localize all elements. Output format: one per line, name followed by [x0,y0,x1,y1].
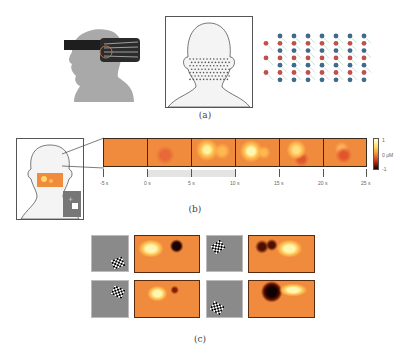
checkerboard-icon [209,301,224,316]
heatmap-time-series [103,138,367,167]
tick [103,169,104,177]
head-with-cap-figure [62,22,142,102]
colorbar-mid-label: 0 μM [382,152,393,158]
activation-map [134,235,200,273]
checkerboard-icon [110,285,125,299]
head-back-view-icon [166,17,252,107]
zoom-lines [60,136,106,172]
stimulus-image [206,235,243,272]
tick-label: 15 s [274,180,283,186]
tick-label: 10 s [230,180,239,186]
checkerboard-icon [111,256,126,270]
heatmap-frame [104,139,148,166]
head-silhouette-icon [62,22,142,102]
colorbar [373,138,379,170]
heatmap-frame [148,139,192,166]
heatmap-frame [192,139,236,166]
heatmap-frame [324,139,368,166]
panel-c-label: (c) [185,334,215,344]
checkerboard-icon [210,239,226,254]
heatmap-frame [280,139,324,166]
panel-a-label: (a) [190,110,220,120]
colorbar-bottom-label: -1 [382,166,386,172]
tick [191,169,192,177]
tick [323,169,324,177]
head-back-grid-frame [165,16,253,108]
stimulus-image [91,280,129,318]
optode-array-icon [262,32,372,84]
tick-label: 0 s [144,180,151,186]
tick-label: -5 s [100,180,108,186]
stimulus-image [206,280,243,318]
activation-map [248,280,315,318]
panel-b-label: (b) [180,204,210,214]
tick [279,169,280,177]
stimulus-image [91,235,129,272]
tick [366,169,367,177]
tick-label: 20 s [318,180,327,186]
tick [147,169,148,177]
heatmap-frame [236,139,280,166]
tick [235,169,236,177]
tick-label: 5 s [188,180,195,186]
svg-text:+: + [68,195,73,202]
optode-array-diagram [262,32,372,84]
activation-map [248,235,315,273]
activation-map [134,280,200,318]
tick-label: 25 s [361,180,370,186]
colorbar-top-label: 1 [382,137,385,143]
